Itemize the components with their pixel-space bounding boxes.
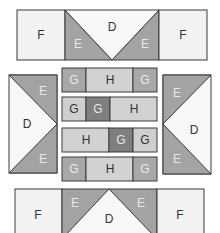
bottom-row: F E E D F — [15, 189, 204, 233]
strip-1-label-1: G — [69, 73, 78, 87]
left-e-bottom-label: E — [39, 152, 47, 166]
top-row: F D E E F — [17, 10, 207, 60]
right-e-bottom-label: E — [173, 152, 181, 166]
strip-4-label-3: G — [140, 162, 149, 176]
strip-3-label-3: G — [140, 133, 149, 147]
bottom-e-left-label: E — [71, 196, 79, 210]
strip-1-label-2: H — [106, 73, 115, 87]
bottom-left-f-label: F — [34, 208, 41, 222]
right-e-top-label: E — [173, 86, 181, 100]
strip-2: G G H — [62, 97, 157, 121]
bottom-d-label: D — [105, 212, 114, 226]
left-d-label: D — [23, 117, 32, 131]
top-d-label: D — [108, 20, 117, 34]
strip-3-label-2: G — [116, 133, 125, 147]
top-right-f-label: F — [179, 28, 186, 42]
right-d-label: D — [190, 123, 199, 137]
top-left-f-label: F — [37, 28, 44, 42]
strip-3-label-1: H — [82, 133, 91, 147]
strip-4: G H G — [62, 157, 157, 181]
top-e-left-label: E — [74, 37, 82, 51]
strip-2-label-3: H — [130, 102, 139, 116]
strip-2-label-2: G — [93, 102, 102, 116]
strip-4-label-2: H — [106, 162, 115, 176]
strip-1: G H G — [62, 68, 157, 92]
top-e-right-label: E — [141, 37, 149, 51]
quilt-block-diagram: F D E E F E D E G H G G G H — [0, 0, 220, 233]
left-e-top-label: E — [39, 84, 47, 98]
left-block: E D E — [9, 75, 57, 173]
strip-3: H G G — [62, 128, 157, 152]
strip-2-label-1: G — [69, 102, 78, 116]
bottom-e-right-label: E — [137, 196, 145, 210]
bottom-right-f-label: F — [176, 208, 183, 222]
strip-4-label-1: G — [69, 162, 78, 176]
strip-1-label-3: G — [140, 73, 149, 87]
right-block: E D E — [163, 75, 211, 174]
